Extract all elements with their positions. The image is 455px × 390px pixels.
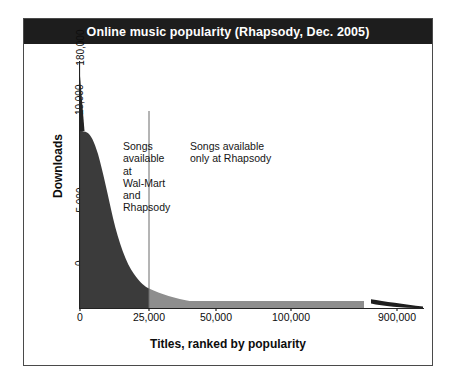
series-rhapsody-only-base	[149, 301, 364, 308]
x-tick-label-25000: 25,000	[133, 311, 165, 323]
y-axis-title: Downloads	[51, 106, 65, 226]
series-spike-180000	[80, 76, 85, 131]
chart-figure: Online music popularity (Rhapsody, Dec. …	[0, 0, 455, 390]
x-tick-label-900000: 900,000	[378, 311, 416, 323]
x-tick-label-100000: 100,000	[272, 311, 310, 323]
x-tick-label-50000: 50,000	[200, 311, 232, 323]
chart-frame: Online music popularity (Rhapsody, Dec. …	[23, 18, 433, 366]
annotation-rhapsody-only: Songs available only at Rhapsody	[190, 140, 271, 165]
series-long-tail	[371, 299, 423, 308]
chart-title: Online music popularity (Rhapsody, Dec. …	[87, 25, 370, 39]
annotation-walmart-rhapsody: Songs available at Wal-Mart and Rhapsody	[123, 140, 170, 214]
x-tick-label-0: 0	[77, 311, 83, 323]
x-axis-title: Titles, ranked by popularity	[24, 337, 432, 351]
